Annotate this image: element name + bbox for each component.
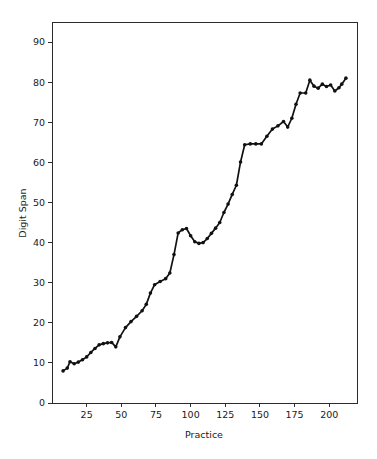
x-tick-label: 150 <box>251 409 269 420</box>
data-point <box>325 85 329 89</box>
x-tick-label: 175 <box>286 409 304 420</box>
data-point <box>197 242 201 246</box>
data-point <box>106 341 110 345</box>
data-series-points <box>61 76 347 372</box>
data-point <box>282 120 286 124</box>
data-point <box>77 360 81 364</box>
data-point <box>61 369 65 373</box>
data-point <box>308 78 312 82</box>
x-tick-label: 100 <box>182 409 200 420</box>
data-point <box>210 232 214 236</box>
x-tick-label: 50 <box>115 409 127 420</box>
data-point <box>340 82 344 86</box>
data-point <box>97 343 101 347</box>
y-tick-label: 80 <box>33 77 45 88</box>
data-point <box>193 240 197 244</box>
data-point <box>329 83 333 87</box>
data-point <box>168 271 172 275</box>
data-point <box>260 142 264 146</box>
x-tick-label: 125 <box>216 409 234 420</box>
data-point <box>81 358 85 362</box>
line-chart: 255075100125150175200 010203040506070809… <box>0 0 377 459</box>
data-point <box>239 160 243 164</box>
data-point <box>205 237 209 241</box>
data-point <box>129 320 133 324</box>
x-axis-ticks <box>87 403 330 407</box>
y-tick-label: 50 <box>33 197 45 208</box>
data-point <box>149 291 153 295</box>
data-point <box>68 360 72 364</box>
data-point <box>294 102 298 106</box>
y-tick-label: 70 <box>33 117 45 128</box>
data-point <box>89 351 93 355</box>
data-point <box>337 86 341 90</box>
y-tick-label: 30 <box>33 277 45 288</box>
data-point <box>304 91 308 95</box>
data-point <box>164 277 168 281</box>
x-tick-label: 200 <box>320 409 338 420</box>
x-axis-tick-labels: 255075100125150175200 <box>81 409 339 420</box>
data-point <box>124 326 128 330</box>
data-point <box>135 315 139 319</box>
data-point <box>189 234 193 238</box>
data-point <box>110 341 114 345</box>
data-point <box>290 116 294 120</box>
data-point <box>344 76 348 80</box>
data-point <box>265 135 269 139</box>
data-point <box>271 127 275 131</box>
data-point <box>254 142 258 146</box>
data-point <box>286 125 290 129</box>
data-point <box>172 253 176 257</box>
y-tick-label: 40 <box>33 237 45 248</box>
x-tick-label: 25 <box>81 409 93 420</box>
data-point <box>102 342 106 346</box>
data-point <box>85 355 89 359</box>
data-point <box>243 143 247 147</box>
y-tick-label: 20 <box>33 317 45 328</box>
data-point <box>316 86 320 90</box>
data-point <box>176 231 180 235</box>
y-tick-label: 0 <box>39 397 45 408</box>
data-series-line <box>63 78 346 371</box>
data-point <box>140 309 144 313</box>
data-point <box>118 335 122 339</box>
data-point <box>144 303 148 307</box>
data-point <box>298 91 302 95</box>
y-tick-label: 60 <box>33 157 45 168</box>
data-point <box>230 193 234 197</box>
data-point <box>235 183 239 187</box>
data-point <box>93 347 97 351</box>
data-point <box>72 362 76 366</box>
y-tick-label: 10 <box>33 357 45 368</box>
data-point <box>226 202 230 206</box>
data-point <box>153 283 157 287</box>
data-point <box>222 211 226 215</box>
data-point <box>185 227 189 231</box>
data-point <box>312 84 316 88</box>
data-point <box>214 226 218 230</box>
y-axis-tick-labels: 0102030405060708090 <box>33 36 45 408</box>
y-axis-title: Digit Span <box>17 188 28 237</box>
data-point <box>158 280 162 284</box>
chart-figure: 255075100125150175200 010203040506070809… <box>0 0 377 459</box>
y-tick-label: 90 <box>33 36 45 47</box>
y-axis-ticks <box>48 42 52 403</box>
data-point <box>248 142 252 146</box>
data-point <box>333 89 337 93</box>
data-point <box>201 241 205 245</box>
data-point <box>181 228 185 232</box>
data-point <box>321 82 325 86</box>
x-axis-title: Practice <box>185 429 223 440</box>
data-point <box>65 366 69 370</box>
data-point <box>218 221 222 225</box>
data-point <box>276 124 280 128</box>
x-tick-label: 75 <box>150 409 162 420</box>
data-point <box>114 345 118 349</box>
